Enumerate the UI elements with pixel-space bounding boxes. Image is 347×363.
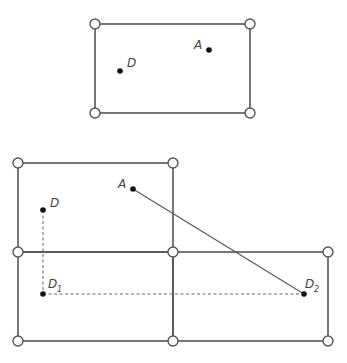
panel-top-left [18, 163, 173, 252]
segment-a-d2 [133, 189, 304, 294]
diagram-canvas: A D A D D 1 D 2 [0, 0, 347, 363]
top-rectangle: A D [90, 19, 255, 118]
hinge-circle-icon [323, 247, 333, 257]
hinge-circle-icon [13, 247, 23, 257]
hinge-circle-icon [245, 19, 255, 29]
point-d-bottom [40, 207, 46, 213]
label-d-bottom: D [50, 196, 59, 210]
label-a-top: A [193, 38, 202, 52]
panel-bottom-left [18, 252, 173, 341]
top-rectangle-outline [95, 24, 250, 113]
point-a-bottom [130, 186, 136, 192]
bottom-unfolded-layout: A D D 1 D 2 [13, 158, 333, 346]
hinge-circle-icon [13, 336, 23, 346]
hinge-circle-icon [323, 336, 333, 346]
label-d1: D [48, 277, 57, 291]
hinge-circle-icon [168, 247, 178, 257]
point-d-top [117, 68, 123, 74]
label-d-top: D [127, 56, 136, 70]
hinge-circle-icon [245, 108, 255, 118]
point-d1 [40, 291, 46, 297]
hinge-circle-icon [168, 158, 178, 168]
hinge-circle-icon [90, 19, 100, 29]
hinge-circle-icon [13, 158, 23, 168]
point-d2 [301, 291, 307, 297]
point-a-top [206, 47, 212, 53]
hinge-circle-icon [90, 108, 100, 118]
hinge-circle-icon [168, 336, 178, 346]
label-a-bottom: A [117, 177, 126, 191]
label-d2-subscript: 2 [314, 285, 319, 294]
label-d1-subscript: 1 [57, 285, 62, 294]
label-d2: D [305, 277, 314, 291]
